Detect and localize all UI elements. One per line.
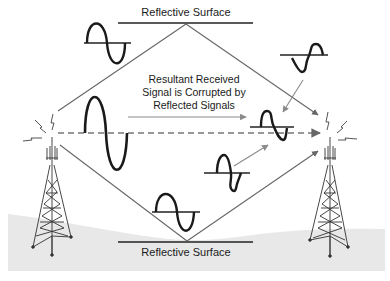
lower-distorted-arrow xyxy=(234,145,268,166)
bottom-surface-label: Reflective Surface xyxy=(133,246,239,259)
upper-reflected-wave xyxy=(84,24,131,64)
lower-reflected-path xyxy=(60,145,318,241)
multipath-diagram: Reflective Surface Reflective Surface Re… xyxy=(0,0,390,281)
caption-line-1: Resultant Received xyxy=(118,73,270,86)
distorted-upper-wave xyxy=(280,44,328,72)
caption-line-2: Signal is Corrupted by xyxy=(118,86,270,99)
diagram-canvas xyxy=(0,0,390,281)
receive-signal-icon xyxy=(326,112,357,140)
corruption-caption: Resultant Received Signal is Corrupted b… xyxy=(118,73,270,112)
caption-line-3: Reflected Signals xyxy=(118,99,270,112)
resultant-corrupted-wave xyxy=(250,111,294,140)
lower-reflected-wave xyxy=(152,194,200,231)
upper-distorted-arrow xyxy=(283,80,303,112)
top-surface-label: Reflective Surface xyxy=(133,6,239,19)
transmit-signal-icon xyxy=(23,114,54,141)
